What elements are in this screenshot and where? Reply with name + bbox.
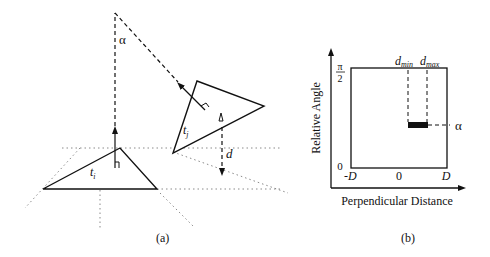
y-top-tick-num: π bbox=[337, 61, 342, 72]
y-top-tick-den: 2 bbox=[338, 73, 343, 84]
x-mid-tick: 0 bbox=[396, 169, 402, 183]
dmin-label: dmin bbox=[395, 54, 413, 69]
caption-a: (a) bbox=[156, 231, 169, 245]
dmax-label: dmax bbox=[420, 54, 440, 69]
x-left-tick: -D bbox=[344, 169, 357, 183]
alpha-range-bar bbox=[408, 122, 428, 128]
panel-b: α dmin dmax π 2 0 -D 0 D Relative Angle … bbox=[309, 52, 462, 245]
distance-d-label: d bbox=[226, 146, 233, 161]
y-bottom-tick: 0 bbox=[337, 160, 343, 172]
domain-box bbox=[351, 68, 447, 168]
x-axis-label: Perpendicular Distance bbox=[341, 194, 453, 208]
normal-tj-dashed-extension bbox=[115, 13, 178, 82]
alpha-label-b: α bbox=[455, 118, 462, 133]
y-axis-label: Relative Angle bbox=[309, 82, 323, 154]
figure-svg: α ti tj d (a) α dmin dmax π 2 0 -D 0 D R… bbox=[0, 0, 490, 257]
figure: α ti tj d (a) α dmin dmax π 2 0 -D 0 D R… bbox=[0, 0, 490, 257]
triangle-ti bbox=[43, 148, 157, 189]
panel-a: α ti tj d (a) bbox=[25, 13, 288, 245]
x-right-tick: D bbox=[441, 169, 451, 183]
caption-b: (b) bbox=[401, 231, 415, 245]
alpha-label-a: α bbox=[119, 32, 126, 47]
